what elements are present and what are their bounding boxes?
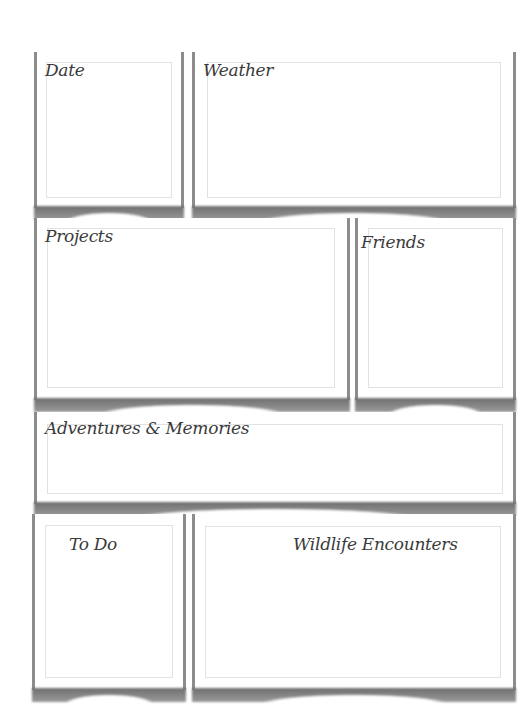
date-section: Date <box>34 52 184 208</box>
projects-section: Projects <box>34 218 350 400</box>
projects-title: Projects <box>45 226 113 246</box>
friends-writing-area[interactable] <box>368 228 503 388</box>
adventures-section: Adventures & Memories <box>34 412 516 504</box>
todo-title: To Do <box>69 534 117 554</box>
date-writing-area[interactable] <box>46 62 172 198</box>
weather-section: Weather <box>192 52 516 208</box>
weather-title: Weather <box>203 60 273 80</box>
wildlife-title: Wildlife Encounters <box>293 534 458 554</box>
projects-writing-area[interactable] <box>47 228 335 388</box>
todo-section: To Do <box>32 514 186 690</box>
adventures-title: Adventures & Memories <box>45 418 249 438</box>
wildlife-section: Wildlife Encounters <box>192 514 516 690</box>
friends-section: Friends <box>355 218 516 400</box>
weather-writing-area[interactable] <box>207 62 501 198</box>
friends-title: Friends <box>361 232 425 252</box>
date-title: Date <box>45 60 84 80</box>
